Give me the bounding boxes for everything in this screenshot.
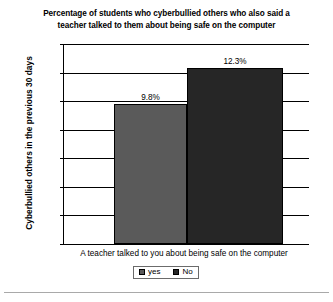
ytick-mark-2 bbox=[60, 215, 64, 216]
legend-swatch-yes-icon bbox=[139, 269, 145, 275]
bar-no[interactable] bbox=[187, 68, 283, 244]
chart-title: Percentage of students who cyberbullied … bbox=[16, 8, 317, 31]
ytick-mark-right-0 bbox=[305, 244, 309, 245]
y-axis-title: Cyberbullied others in the previous 30 d… bbox=[24, 36, 34, 251]
ytick-mark-6 bbox=[60, 158, 64, 159]
ytick-mark-14 bbox=[60, 44, 64, 45]
x-axis-label: A teacher talked to you about being safe… bbox=[63, 249, 305, 258]
bar-series-group: 9.8% 12.3% bbox=[65, 44, 306, 244]
legend-item-no[interactable]: No bbox=[173, 268, 192, 276]
legend-swatch-no-icon bbox=[173, 269, 179, 275]
chart-title-line-2: teacher talked to them about being safe … bbox=[16, 20, 317, 32]
bar-yes[interactable] bbox=[114, 104, 187, 244]
ytick-mark-8 bbox=[60, 130, 64, 131]
ytick-mark-0 bbox=[60, 244, 64, 245]
chart-title-line-1: Percentage of students who cyberbullied … bbox=[16, 8, 317, 20]
ytick-mark-12 bbox=[60, 73, 64, 74]
ytick-mark-4 bbox=[60, 187, 64, 188]
chart-legend[interactable]: yes No bbox=[133, 266, 199, 279]
plot-area: 14.0% 12.0% 10.0% 8.0% 6.0% 4.0% 2.0% 0.… bbox=[63, 44, 305, 245]
legend-label-yes: yes bbox=[148, 268, 160, 276]
bar-value-label-yes: 9.8% bbox=[114, 93, 187, 102]
legend-item-yes[interactable]: yes bbox=[139, 268, 160, 276]
legend-label-no: No bbox=[182, 268, 192, 276]
bar-chart-figure: Percentage of students who cyberbullied … bbox=[0, 0, 333, 302]
bottom-divider bbox=[4, 292, 329, 293]
ytick-mark-10 bbox=[60, 101, 64, 102]
bar-value-label-no: 12.3% bbox=[187, 57, 283, 66]
